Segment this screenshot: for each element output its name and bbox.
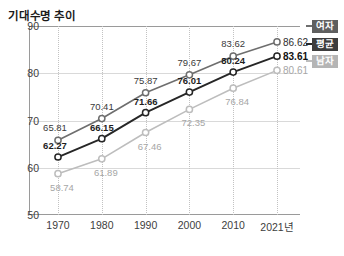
data-point-남자-2000: [186, 106, 192, 112]
legend-label-여자: 여자: [312, 20, 338, 33]
legend-label-남자: 남자: [312, 55, 338, 68]
data-label-여자-1990: 75.87: [134, 74, 158, 85]
data-point-평균-1980: [99, 136, 105, 142]
data-label-평균-1970: 62.27: [43, 140, 67, 151]
data-point-평균-1970: [55, 154, 61, 160]
data-label-평균-2010: 80.24: [221, 55, 245, 66]
chart-root: 기대수명 추이 9080706050 197019801990200020102…: [0, 0, 344, 256]
legend-item-여자[interactable]: 여자: [306, 20, 338, 33]
legend-item-남자[interactable]: 남자: [306, 55, 338, 68]
data-point-남자-1970: [55, 171, 61, 177]
data-point-남자-1990: [143, 129, 149, 135]
data-point-여자-2021년: [274, 39, 280, 45]
data-point-평균-2010: [230, 69, 236, 75]
end-label-여자: 86.62: [283, 36, 308, 47]
legend-label-평균: 평균: [312, 38, 338, 51]
data-label-여자-1970: 65.81: [43, 122, 67, 133]
data-point-남자-2010: [230, 85, 236, 91]
data-label-평균-1990: 71.66: [134, 95, 158, 106]
end-label-남자: 80.61: [283, 65, 308, 76]
end-label-평균: 83.61: [283, 51, 308, 62]
data-point-남자-2021년: [274, 67, 280, 73]
data-label-여자-2010: 83.62: [221, 38, 245, 49]
data-label-평균-2000: 76.01: [178, 75, 202, 86]
data-point-남자-1980: [99, 156, 105, 162]
data-label-남자-1980: 61.89: [94, 166, 118, 177]
data-label-남자-1970: 58.74: [50, 181, 74, 192]
data-label-남자-2000: 72.35: [182, 117, 206, 128]
data-point-평균-2021년: [274, 53, 280, 59]
data-point-평균-2000: [186, 89, 192, 95]
legend-item-평균[interactable]: 평균: [306, 38, 338, 51]
data-label-남자-2010: 76.84: [225, 96, 249, 107]
data-label-평균-1980: 66.15: [90, 121, 114, 132]
data-point-평균-1990: [143, 110, 149, 116]
data-label-남자-1990: 67.46: [138, 140, 162, 151]
data-label-여자-1980: 70.41: [90, 100, 114, 111]
data-label-여자-2000: 79.67: [178, 56, 202, 67]
